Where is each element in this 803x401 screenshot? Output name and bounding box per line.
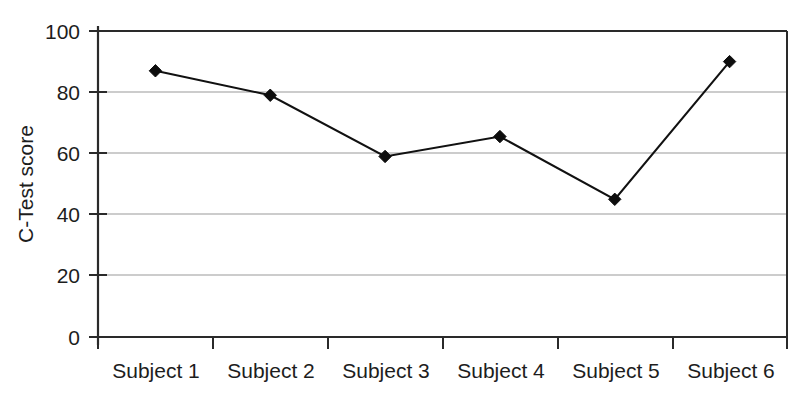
x-tick-label-subject-3: Subject 3 [342, 359, 430, 382]
y-axis-title: C-Test score [14, 125, 37, 243]
y-tick-label-60: 60 [57, 142, 80, 165]
x-tick-label-subject-2: Subject 2 [227, 359, 315, 382]
y-tick-label-0: 0 [68, 326, 80, 349]
line-chart: 100 80 60 40 20 0 Subject 1 Subject 2 Su… [0, 0, 803, 401]
chart-background [0, 0, 803, 401]
x-tick-label-subject-5: Subject 5 [572, 359, 660, 382]
y-tick-label-40: 40 [57, 203, 80, 226]
y-tick-label-20: 20 [57, 264, 80, 287]
y-tick-label-100: 100 [45, 20, 80, 43]
x-tick-label-subject-6: Subject 6 [687, 359, 775, 382]
x-tick-label-subject-1: Subject 1 [112, 359, 200, 382]
chart-figure: 100 80 60 40 20 0 Subject 1 Subject 2 Su… [0, 0, 803, 401]
x-tick-label-subject-4: Subject 4 [457, 359, 545, 382]
y-tick-label-80: 80 [57, 81, 80, 104]
